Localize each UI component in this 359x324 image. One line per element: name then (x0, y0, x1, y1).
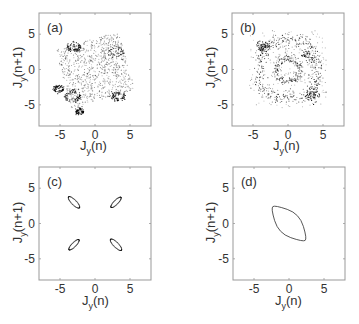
panel-d: -505-505(d) Jy(n+1) Jy(n) (0, 0, 359, 324)
y-tick-label: 5 (222, 181, 229, 195)
y-tick-label: -5 (218, 252, 229, 266)
x-tick-label: 5 (321, 282, 328, 296)
x-tick-label: -5 (249, 282, 260, 296)
y-axis-label-d: Jy(n+1) (203, 188, 218, 258)
x-axis-label-d: Jy(n) (275, 293, 302, 308)
panel-label: (d) (241, 174, 257, 189)
y-tick-label: 0 (222, 217, 229, 231)
plot-area-d: -505-505(d) (0, 0, 359, 324)
